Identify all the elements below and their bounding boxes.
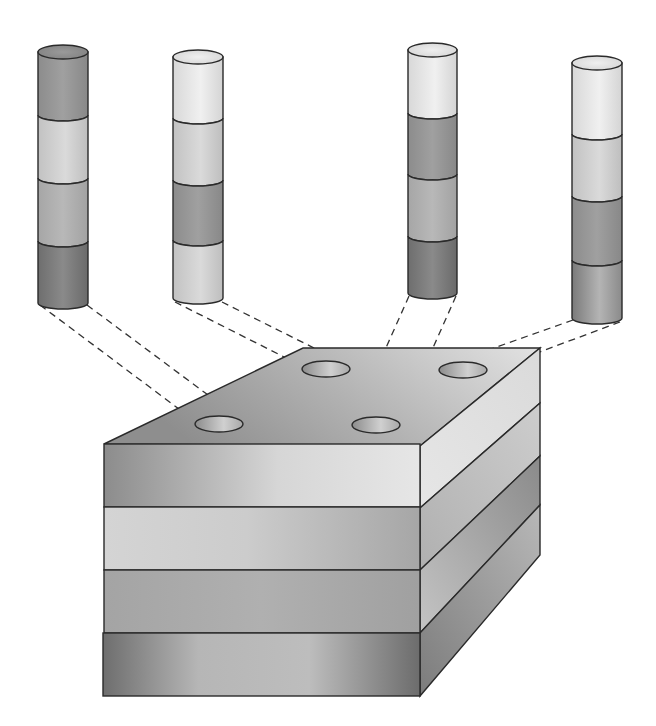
drill-hole-3 bbox=[352, 417, 400, 433]
core-sample-diagram bbox=[0, 0, 656, 726]
core-1-top-cap bbox=[38, 45, 88, 59]
core-3-band-1 bbox=[408, 50, 457, 119]
core-3-band-3 bbox=[408, 174, 457, 242]
front-stratum-1 bbox=[104, 444, 420, 507]
core-4-band-4 bbox=[572, 260, 622, 324]
front-stratum-2 bbox=[104, 507, 420, 570]
core-1-band-2 bbox=[38, 115, 88, 184]
core-4-band-3 bbox=[572, 196, 622, 266]
core-sample-4 bbox=[572, 56, 622, 324]
core-2-band-3 bbox=[173, 180, 223, 246]
rock-strata-block bbox=[103, 348, 540, 696]
front-stratum-4 bbox=[103, 633, 420, 696]
drill-hole-1 bbox=[195, 416, 243, 432]
core-3-top-cap bbox=[408, 43, 457, 57]
core-sample-3 bbox=[408, 43, 457, 299]
core-4-top-cap bbox=[572, 56, 622, 70]
core-4-band-2 bbox=[572, 134, 622, 202]
core-1-band-1 bbox=[38, 52, 88, 121]
core-2-band-2 bbox=[173, 118, 223, 186]
core-3-band-2 bbox=[408, 113, 457, 180]
core-4-band-1 bbox=[572, 63, 622, 140]
core-sample-1 bbox=[38, 45, 88, 309]
core-1-band-3 bbox=[38, 178, 88, 247]
core-2-top-cap bbox=[173, 50, 223, 64]
front-stratum-3 bbox=[104, 570, 420, 633]
core-2-band-4 bbox=[173, 240, 223, 304]
drill-hole-2 bbox=[302, 361, 350, 377]
core-3-band-4 bbox=[408, 236, 457, 299]
core-1-band-4 bbox=[38, 241, 88, 309]
core-sample-2 bbox=[173, 50, 223, 304]
core-2-band-1 bbox=[173, 57, 223, 124]
drill-hole-4 bbox=[439, 362, 487, 378]
